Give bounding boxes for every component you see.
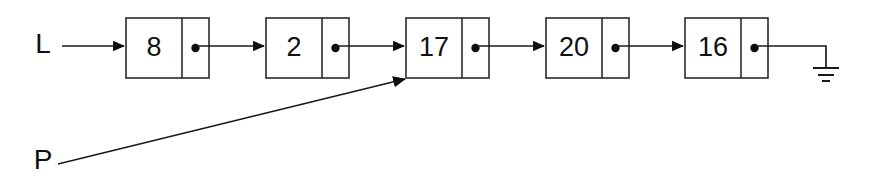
node-pointer-dot: [750, 44, 758, 52]
node-pointer-dot: [191, 44, 199, 52]
node-value: 17: [419, 32, 449, 62]
node-value: 16: [698, 32, 728, 62]
aux-pointer-arrow: [58, 79, 405, 164]
head-pointer-label: L: [35, 28, 51, 59]
node-value: 8: [146, 32, 161, 62]
node-value: 20: [559, 32, 589, 62]
node-value: 2: [286, 32, 301, 62]
aux-pointer-label: P: [34, 144, 53, 175]
head-pointer-layer: L: [35, 28, 124, 59]
node-pointer-dot: [611, 44, 619, 52]
list-node[interactable]: 17: [406, 18, 489, 78]
nodes-layer: 82172016: [126, 18, 768, 78]
list-node[interactable]: 2: [266, 18, 349, 78]
diagram-canvas: 82172016 L P: [0, 0, 871, 188]
linked-list-diagram: 82172016 L P: [0, 0, 871, 188]
node-pointer-dot: [331, 44, 339, 52]
node-pointer-dot: [471, 44, 479, 52]
list-node[interactable]: 8: [126, 18, 209, 78]
list-node[interactable]: 20: [546, 18, 629, 78]
aux-pointer-layer: P: [34, 79, 405, 175]
list-node[interactable]: 16: [685, 18, 768, 78]
